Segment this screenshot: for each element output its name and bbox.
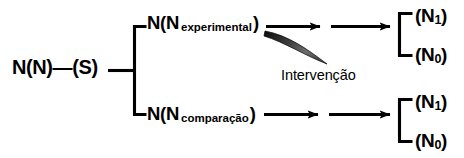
comparison-outcome-n0-subscript: 0 — [434, 138, 441, 152]
comparacao-outcome-bracket — [400, 100, 413, 142]
comparison-group-label: N(Ncomparação) — [147, 105, 256, 124]
comparison-group-prefix: N(N — [147, 103, 179, 124]
experimental-outcome-n1: (N1) — [415, 6, 447, 25]
experimental-outcome-n0-prefix: (N — [415, 44, 434, 65]
experimental-group-prefix: N(N — [147, 12, 179, 33]
experimental-outcome-n1-suffix: ) — [441, 5, 447, 26]
experimental-outcome-n1-prefix: (N — [415, 5, 434, 26]
comparison-group-suffix: ) — [250, 103, 256, 124]
comparison-outcome-n1: (N1) — [415, 92, 447, 111]
experimental-outcome-n0-suffix: ) — [441, 44, 447, 65]
experimental-outcome-bracket — [400, 14, 413, 56]
experimental-outcome-n0: (N0) — [415, 45, 447, 64]
comparison-outcome-n1-suffix: ) — [441, 91, 447, 112]
comparison-outcome-n0-prefix: (N — [415, 130, 434, 151]
experimental-outcome-n1-subscript: 1 — [434, 13, 441, 27]
research-design-diagram: N(N)—(S) N(Nexperimental) N(Ncomparação)… — [0, 0, 464, 158]
comparison-outcome-n0-suffix: ) — [441, 130, 447, 151]
experimental-group-subscript: experimental — [179, 21, 253, 33]
source-population-label: N(N)—(S) — [12, 57, 98, 77]
comparison-outcome-n1-subscript: 1 — [434, 99, 441, 113]
trunk-split-bracket — [135, 27, 147, 115]
intervention-wedge-arrow — [264, 31, 327, 64]
experimental-outcome-n0-subscript: 0 — [434, 52, 441, 66]
comparison-outcome-n0: (N0) — [415, 131, 447, 150]
intervention-caption: Intervenção — [281, 68, 356, 83]
comparison-group-subscript: comparação — [179, 112, 250, 124]
experimental-group-suffix: ) — [253, 12, 259, 33]
experimental-group-label: N(Nexperimental) — [147, 14, 259, 33]
comparison-outcome-n1-prefix: (N — [415, 91, 434, 112]
